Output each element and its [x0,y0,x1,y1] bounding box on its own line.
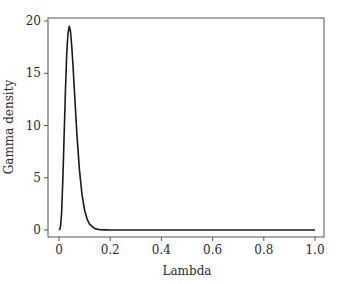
y-axis-ticks: 05101520 [26,14,48,237]
x-tick-label: 0.4 [152,243,171,257]
density-curve [59,26,315,230]
x-tick-label: 0.6 [203,243,222,257]
y-tick-label: 15 [26,66,41,80]
y-axis-label: Gamma density [2,79,16,174]
x-tick-label: 1.0 [305,243,324,257]
plot-frame [48,18,324,237]
x-axis-ticks: 00.20.40.60.81.0 [55,237,324,257]
y-tick-label: 0 [33,223,41,237]
gamma-density-chart: 05101520 00.20.40.60.81.0 Lambda Gamma d… [0,0,339,284]
x-tick-label: 0 [55,243,63,257]
y-tick-label: 5 [33,171,41,185]
y-tick-label: 10 [26,119,41,133]
x-axis-label: Lambda [162,264,211,278]
x-tick-label: 0.2 [101,243,120,257]
y-tick-label: 20 [26,14,41,28]
x-tick-label: 0.8 [254,243,273,257]
